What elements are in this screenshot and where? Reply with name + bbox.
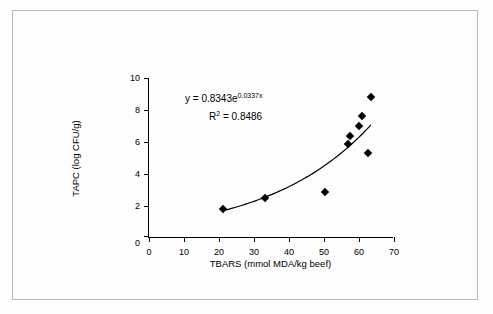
equation-annotation: y = 0.8343e0.0337x bbox=[185, 92, 262, 104]
y-axis-title: TAPC (log CFU/g) bbox=[68, 78, 82, 238]
x-axis-title: TBARS (mmol MDA/kg beef) bbox=[148, 258, 393, 269]
scanned-page: TAPC (log CFU/g) 0 2 4 6 8 10 0 10 20 bbox=[0, 0, 493, 314]
x-tick bbox=[394, 237, 395, 242]
x-tick-label: 60 bbox=[354, 247, 364, 257]
y-tick-label: 6 bbox=[135, 137, 140, 147]
x-tick-label: 0 bbox=[146, 247, 151, 257]
y-tick-label: 10 bbox=[130, 73, 140, 83]
chart-figure: TAPC (log CFU/g) 0 2 4 6 8 10 0 10 20 bbox=[60, 40, 440, 270]
x-tick-label: 10 bbox=[179, 247, 189, 257]
x-tick-label: 20 bbox=[214, 247, 224, 257]
y-tick-label: 2 bbox=[135, 201, 140, 211]
y-tick-label: 0 bbox=[135, 238, 140, 239]
x-tick-label: 30 bbox=[249, 247, 259, 257]
x-tick-label: 40 bbox=[284, 247, 294, 257]
x-tick-label: 70 bbox=[389, 247, 399, 257]
y-tick-label: 4 bbox=[135, 169, 140, 179]
equation-prefix: y = 0.8343e bbox=[185, 93, 238, 104]
r-squared-value: = 0.8486 bbox=[220, 111, 262, 122]
y-tick-label: 8 bbox=[135, 105, 140, 115]
equation-exponent: 0.0337x bbox=[238, 92, 263, 99]
x-tick-label: 50 bbox=[319, 247, 329, 257]
r-squared-annotation: R2 = 0.8486 bbox=[209, 110, 262, 122]
y-axis-title-text: TAPC (log CFU/g) bbox=[70, 120, 81, 196]
